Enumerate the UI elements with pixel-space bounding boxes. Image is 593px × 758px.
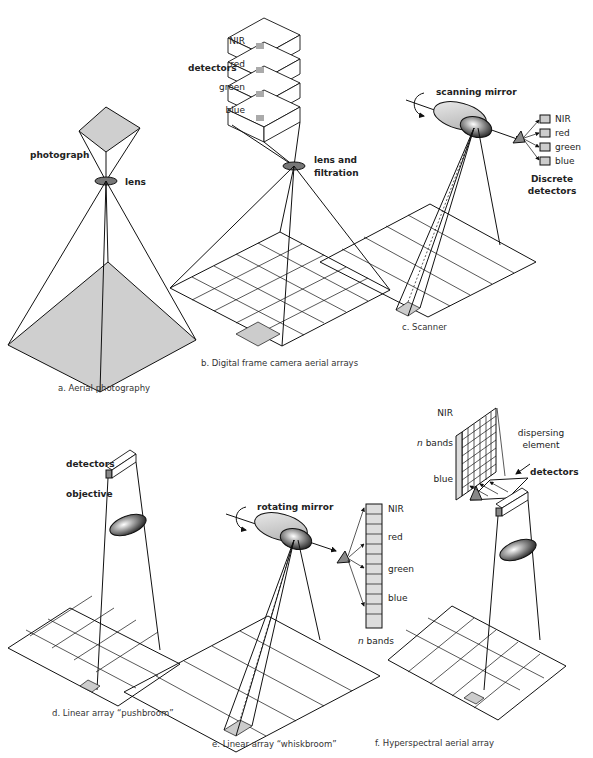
- caption-c: c. Scanner: [402, 322, 447, 332]
- caption-e: e. Linear array “whiskbroom”: [212, 739, 337, 749]
- label-n-bands: n bands: [358, 636, 394, 646]
- label-dispersing: dispersing: [518, 428, 564, 438]
- label-band-red: red: [555, 128, 570, 138]
- label-band-green: green: [555, 142, 581, 152]
- label-lens-and: lens and: [314, 155, 357, 165]
- ground-grid: [124, 616, 380, 752]
- label-band-green: green: [219, 82, 245, 92]
- label-element: element: [522, 440, 560, 450]
- label-photograph: photograph: [30, 150, 89, 160]
- label-detectors: detectors: [66, 459, 115, 469]
- label-blue: blue: [434, 474, 454, 484]
- label-detectors: detectors: [530, 467, 579, 477]
- ground-grid: [8, 596, 180, 706]
- caption-a: a. Aerial photography: [58, 383, 150, 393]
- label-scanning-mirror: scanning mirror: [436, 87, 517, 97]
- caption-f: f. Hyperspectral aerial array: [375, 738, 494, 748]
- discrete-detectors-icon: [524, 115, 550, 165]
- label-band-red: red: [388, 532, 403, 542]
- label-band-nir: NIR: [229, 36, 245, 46]
- ground-grid: [170, 232, 390, 346]
- label-lens: lens: [125, 177, 146, 187]
- label-band-red: red: [230, 59, 245, 69]
- label-band-blue: blue: [555, 156, 575, 166]
- rotation-arrow-icon: [236, 507, 246, 530]
- label-band-nir: NIR: [555, 114, 571, 124]
- label-filtration: filtration: [314, 168, 359, 178]
- label-discrete: Discrete: [531, 174, 573, 184]
- panel-hyperspectral: [388, 408, 566, 720]
- prism-icon: [513, 131, 525, 143]
- label-discrete-detectors: detectors: [528, 186, 577, 196]
- label-band-blue: blue: [388, 593, 408, 603]
- label-band-nir: NIR: [388, 504, 404, 514]
- label-band-green: green: [388, 564, 414, 574]
- band-detector-column-icon: [348, 504, 382, 628]
- caption-d: d. Linear array “pushbroom”: [52, 708, 174, 718]
- label-nir: NIR: [437, 408, 453, 418]
- label-n-bands: n bands: [417, 438, 453, 448]
- label-rotating-mirror: rotating mirror: [257, 502, 334, 512]
- remote-sensing-diagram: photograph lens a. Aerial photography de…: [0, 0, 593, 758]
- caption-b: b. Digital frame camera aerial arrays: [201, 358, 359, 368]
- panel-scanner: [320, 93, 550, 317]
- photograph-plate-icon: [79, 107, 140, 152]
- label-objective: objective: [66, 489, 113, 499]
- ground-grid: [388, 606, 566, 720]
- label-band-blue: blue: [226, 105, 246, 115]
- objective-lens-icon: [497, 535, 539, 565]
